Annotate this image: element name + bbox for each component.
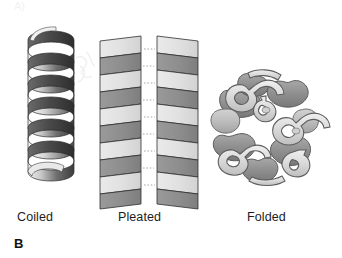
pleated-strand-left: [100, 36, 141, 209]
ghost-sketch: [76, 52, 95, 82]
protein-structure-figure: A): [0, 0, 342, 258]
structure-label-coiled: Coiled: [17, 210, 53, 224]
panel-letter-label: B: [14, 236, 23, 251]
structure-label-folded: Folded: [247, 210, 286, 224]
structure-label-pleated: Pleated: [118, 210, 161, 224]
globular-folded-protein-icon: [211, 70, 330, 186]
hydrogen-bond-lines: [143, 49, 155, 185]
pleated-strand-right: [157, 36, 198, 209]
beta-pleated-sheet-icon: [100, 36, 198, 209]
alpha-helix-ribbon-icon: [26, 27, 95, 181]
